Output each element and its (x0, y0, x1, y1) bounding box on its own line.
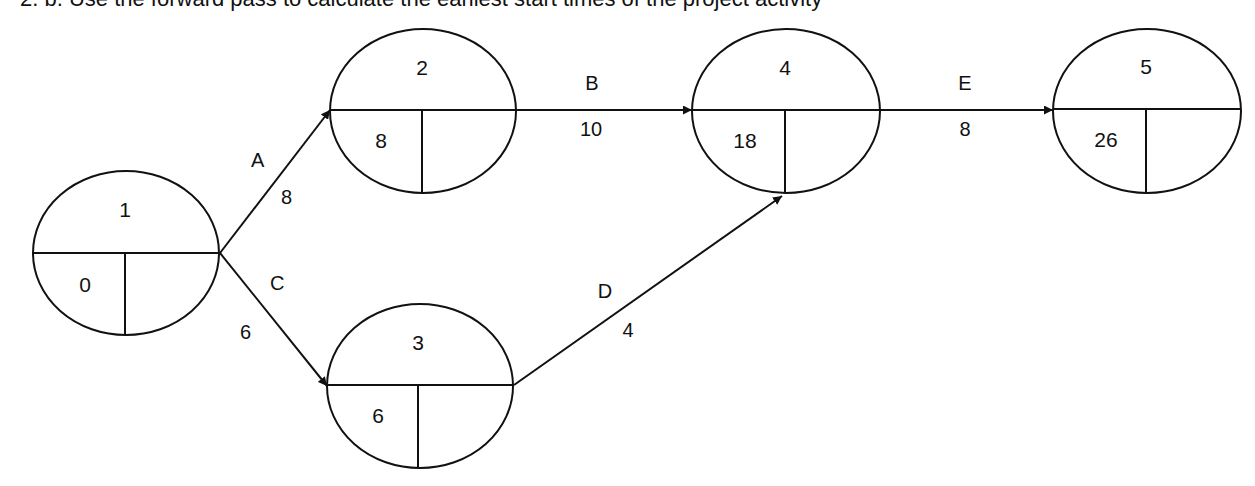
edge-E: E 8 (880, 72, 1053, 140)
edge-duration-label: 10 (580, 118, 602, 140)
node-earliest-time: 6 (372, 404, 384, 427)
node-number: 3 (412, 331, 424, 354)
node-number: 1 (119, 198, 131, 221)
node-4: 4 18 (692, 29, 880, 193)
node-number: 2 (416, 56, 428, 79)
arrow-icon (220, 110, 330, 253)
node-earliest-time: 8 (375, 129, 387, 152)
edge-activity-label: D (598, 280, 612, 302)
node-earliest-time: 18 (733, 129, 756, 152)
edge-duration-label: 8 (281, 186, 292, 208)
network-diagram: A 8 C 6 B 10 D 4 E 8 1 0 2 8 (0, 0, 1255, 486)
edge-activity-label: B (585, 72, 598, 94)
edge-duration-label: 4 (622, 319, 633, 341)
edge-duration-label: 8 (959, 118, 970, 140)
node-number: 4 (779, 56, 791, 79)
edge-B: B 10 (517, 72, 692, 140)
edge-duration-label: 6 (240, 321, 251, 343)
edge-activity-label: E (958, 72, 971, 94)
node-earliest-time: 26 (1094, 128, 1117, 151)
node-number: 5 (1140, 55, 1152, 78)
node-2: 2 8 (330, 29, 517, 193)
edge-D: D 4 (514, 196, 782, 385)
edge-activity-label: C (270, 272, 284, 294)
node-1: 1 0 (33, 171, 219, 335)
arrow-icon (514, 196, 782, 385)
edge-C: C 6 (220, 253, 327, 386)
edge-activity-label: A (251, 149, 265, 171)
node-3: 3 6 (327, 304, 514, 468)
edge-A: A 8 (220, 110, 330, 253)
node-earliest-time: 0 (79, 273, 91, 296)
node-5: 5 26 (1053, 29, 1241, 193)
